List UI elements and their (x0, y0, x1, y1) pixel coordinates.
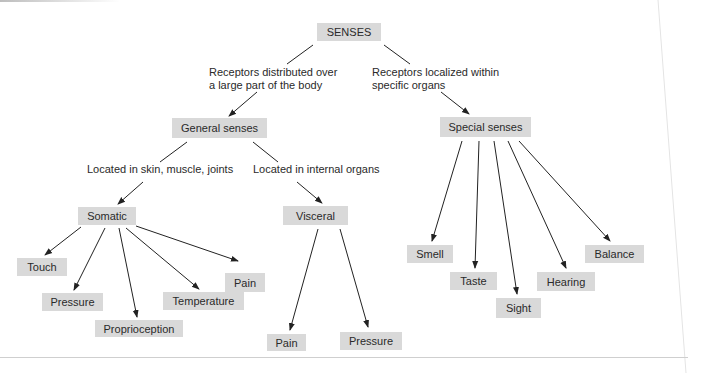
arrow-special-sight (494, 141, 517, 294)
node-balance: Balance (585, 245, 644, 263)
node-somatic-pressure: Pressure (42, 293, 103, 311)
label-special-line2: specific organs (372, 79, 499, 92)
line-general-visceral (253, 142, 278, 162)
node-proprioception: Proprioception (95, 320, 183, 337)
arrow-special-balance (519, 141, 610, 241)
arrow-to-special (441, 92, 469, 114)
arrow-special-taste (475, 141, 479, 268)
connector-lines (0, 0, 703, 373)
node-somatic-pain: Pain (225, 273, 265, 292)
label-special-receptors: Receptors localized within specific orga… (372, 66, 499, 92)
arrow-somatic-touch (45, 227, 81, 255)
line-senses-general (287, 45, 313, 64)
label-general-line1: Receptors distributed over (209, 66, 337, 79)
arrow-to-somatic (118, 182, 143, 204)
scan-edge-right (658, 0, 686, 373)
node-somatic: Somatic (78, 207, 136, 225)
label-somatic-location: Located in skin, muscle, joints (87, 163, 233, 176)
arrow-somatic-pressure (74, 228, 105, 290)
arrow-special-smell (432, 141, 462, 241)
node-visceral-pain: Pain (267, 334, 306, 351)
label-special-line1: Receptors localized within (372, 66, 499, 79)
line-senses-special (384, 45, 410, 64)
node-temperature: Temperature (163, 292, 244, 310)
arrow-somatic-pain (136, 226, 238, 261)
node-smell: Smell (407, 245, 453, 263)
bottom-divider (0, 357, 688, 358)
node-touch: Touch (17, 258, 67, 276)
senses-diagram: SENSES Receptors distributed over a larg… (0, 0, 703, 373)
label-visceral-location: Located in internal organs (253, 163, 380, 176)
arrow-visceral-pain (290, 229, 318, 330)
node-senses: SENSES (317, 23, 381, 41)
line-general-somatic (160, 142, 187, 162)
arrow-to-general (229, 92, 257, 116)
arrow-visceral-pressure (340, 229, 368, 327)
node-visceral: Visceral (283, 206, 348, 225)
node-taste: Taste (450, 272, 497, 290)
arrow-to-visceral (297, 182, 322, 203)
node-hearing: Hearing (537, 272, 595, 291)
arrow-somatic-proprioception (119, 228, 137, 317)
arrow-somatic-temperature (126, 228, 199, 289)
node-special-senses: Special senses (440, 117, 531, 137)
node-sight: Sight (496, 298, 541, 318)
node-general-senses: General senses (172, 118, 267, 138)
node-visceral-pressure: Pressure (340, 332, 402, 350)
label-general-receptors: Receptors distributed over a large part … (209, 66, 337, 92)
label-general-line2: a large part of the body (209, 79, 337, 92)
